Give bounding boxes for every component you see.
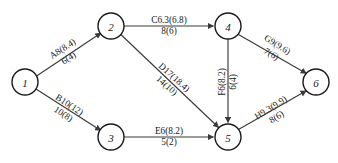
node-5-label: 5: [225, 132, 231, 144]
edge-4-5-label: F6(8.2) 6(4): [217, 68, 240, 96]
network-diagram-canvas: 1 2 3 4 5 6 A8(8.4) 6(4) B10(12) 10(8) C…: [0, 0, 338, 163]
edge-3-5-label-bottom: 5(2): [155, 137, 183, 148]
edge-2-4-label-bottom: 8(6): [151, 26, 187, 37]
edge-2-4-label-top: C6.3(6.8): [151, 15, 187, 26]
node-3-label: 3: [107, 132, 114, 144]
edge-3-5-label-top: E6(8.2): [155, 126, 183, 137]
node-6-label: 6: [313, 77, 319, 89]
node-4-label: 4: [225, 21, 231, 33]
edge-4-5-label-bottom: 6(4): [228, 68, 239, 96]
edge-4-5-label-top: F6(8.2): [217, 68, 228, 96]
edge-3-5-label: E6(8.2) 5(2): [155, 126, 183, 149]
node-2-label: 2: [108, 21, 114, 33]
edge-2-4-label: C6.3(6.8) 8(6): [151, 15, 187, 38]
node-1-label: 1: [22, 77, 28, 89]
